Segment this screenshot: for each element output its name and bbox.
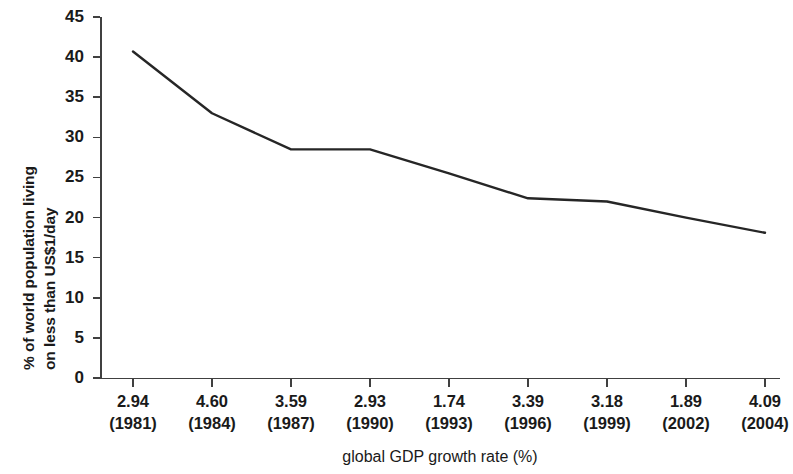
data-series-line <box>133 52 765 233</box>
x-axis-tick-mark <box>211 379 213 387</box>
y-axis-tick-label: 15 <box>52 249 84 266</box>
y-axis-tick-mark <box>93 257 100 259</box>
y-axis-tick-mark <box>93 377 100 379</box>
x-axis-tick-label: 1.89(2002) <box>646 391 726 435</box>
y-axis-tick-label: 10 <box>52 289 84 306</box>
x-tick-year: (1984) <box>172 413 252 435</box>
x-axis-tick-mark <box>685 379 687 387</box>
x-axis-line <box>100 378 780 380</box>
x-axis-tick-mark <box>369 379 371 387</box>
y-axis-tick-mark <box>93 297 100 299</box>
x-tick-growth-rate: 2.94 <box>93 391 173 413</box>
x-tick-year: (1996) <box>488 413 568 435</box>
y-axis-tick-mark <box>93 337 100 339</box>
x-axis-tick-label: 3.18(1999) <box>567 391 647 435</box>
x-tick-growth-rate: 3.39 <box>488 391 568 413</box>
x-axis-tick-label: 3.39(1996) <box>488 391 568 435</box>
y-axis-tick-label: 25 <box>52 168 84 185</box>
y-axis-tick-label: 45 <box>52 8 84 25</box>
y-axis-title: % of world population living on less tha… <box>0 0 56 390</box>
x-axis-tick-mark <box>606 379 608 387</box>
x-tick-growth-rate: 3.18 <box>567 391 647 413</box>
y-axis-tick-label: 20 <box>52 209 84 226</box>
x-tick-growth-rate: 1.89 <box>646 391 726 413</box>
y-axis-tick-mark <box>93 177 100 179</box>
x-tick-year: (1987) <box>251 413 331 435</box>
x-tick-growth-rate: 4.60 <box>172 391 252 413</box>
y-axis-tick-mark <box>93 96 100 98</box>
x-axis-title: global GDP growth rate (%) <box>100 448 780 466</box>
y-axis-tick-mark <box>93 16 100 18</box>
y-axis-tick-label: 35 <box>52 88 84 105</box>
y-axis-tick-label: 5 <box>52 329 84 346</box>
x-tick-growth-rate: 4.09 <box>725 391 793 413</box>
y-axis-tick-label: 40 <box>52 48 84 65</box>
x-tick-year: (2004) <box>725 413 793 435</box>
y-axis-tick-mark <box>93 137 100 139</box>
x-tick-year: (1993) <box>409 413 489 435</box>
x-axis-tick-label: 2.94(1981) <box>93 391 173 435</box>
y-axis-title-line-1: % of world population living <box>20 166 38 370</box>
x-tick-growth-rate: 2.93 <box>330 391 410 413</box>
x-axis-tick-mark <box>290 379 292 387</box>
x-tick-year: (1990) <box>330 413 410 435</box>
y-axis-tick-mark <box>93 217 100 219</box>
x-axis-tick-label: 2.93(1990) <box>330 391 410 435</box>
x-tick-growth-rate: 1.74 <box>409 391 489 413</box>
y-axis-tick-label: 30 <box>52 128 84 145</box>
x-axis-tick-label: 4.09(2004) <box>725 391 793 435</box>
x-axis-tick-mark <box>448 379 450 387</box>
y-axis-line <box>100 17 102 379</box>
x-tick-year: (2002) <box>646 413 726 435</box>
x-axis-tick-label: 3.59(1987) <box>251 391 331 435</box>
x-tick-year: (1999) <box>567 413 647 435</box>
x-tick-growth-rate: 3.59 <box>251 391 331 413</box>
x-axis-tick-mark <box>764 379 766 387</box>
x-axis-tick-mark <box>527 379 529 387</box>
x-axis-tick-mark <box>132 379 134 387</box>
x-axis-tick-label: 1.74(1993) <box>409 391 489 435</box>
x-axis-tick-label: 4.60(1984) <box>172 391 252 435</box>
x-tick-year: (1981) <box>93 413 173 435</box>
y-axis-tick-mark <box>93 56 100 58</box>
y-axis-tick-label: 0 <box>52 369 84 386</box>
